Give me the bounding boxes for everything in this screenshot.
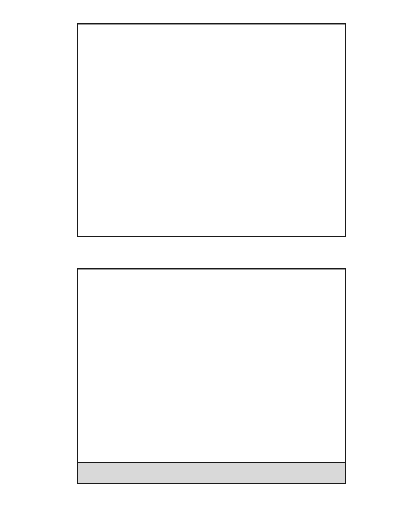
category-band: [77, 462, 346, 484]
panel-fish-critical-body-residue: [0, 253, 414, 506]
gridline-hi-1-top: [78, 24, 345, 25]
panel-avian-ingestion-dose: [0, 0, 414, 253]
gridline-hi-1-bottom: [78, 269, 345, 270]
figure-root: [0, 0, 414, 506]
y-axis-title-top: [0, 54, 60, 204]
plot-area-top: [77, 23, 346, 237]
y2-axis-title-top: [373, 83, 412, 203]
y-axis-title-bottom: [0, 286, 61, 458]
y2-axis-title-bottom: [373, 325, 412, 445]
plot-area-bottom: [77, 268, 346, 463]
